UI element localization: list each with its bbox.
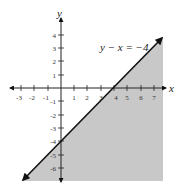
graph-canvas: -3 -2 -1 1 2 3 4 5 6 7 4 3 2 1 -1 -2 -3 … [0,0,180,194]
svg-text:7: 7 [152,94,156,102]
svg-text:2: 2 [85,94,89,102]
svg-text:1: 1 [53,72,57,80]
x-axis-label: x [168,82,174,94]
svg-text:2: 2 [53,58,57,66]
svg-text:-1: -1 [43,94,49,102]
svg-text:-2: -2 [29,94,35,102]
svg-text:-1: -1 [50,98,56,106]
svg-text:-3: -3 [50,125,56,133]
svg-text:-3: -3 [16,94,22,102]
svg-text:1: 1 [72,94,76,102]
equation-label: y − x = −4 [99,41,149,53]
svg-text:-4: -4 [50,138,56,146]
svg-text:-6: -6 [50,165,56,173]
svg-text:5: 5 [125,94,129,102]
svg-text:-2: -2 [50,112,56,120]
svg-text:3: 3 [53,45,57,53]
svg-text:4: 4 [53,32,57,40]
y-axis-label: y [56,7,62,19]
svg-text:4: 4 [114,94,118,102]
svg-text:-5: -5 [50,152,56,160]
svg-text:6: 6 [139,94,143,102]
